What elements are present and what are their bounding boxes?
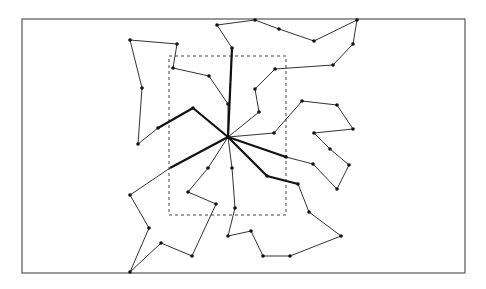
diagram-canvas [0, 0, 486, 289]
node [311, 162, 315, 166]
node [257, 110, 261, 114]
loop-edge-top [217, 20, 357, 137]
node [307, 210, 311, 214]
node [328, 147, 332, 151]
star-loop-diagram [0, 0, 486, 289]
node [288, 254, 292, 258]
node [128, 38, 132, 42]
loop-edge-lower-left [130, 137, 228, 272]
node [207, 74, 211, 78]
node [253, 18, 257, 22]
node [191, 106, 195, 110]
node [233, 206, 237, 210]
node [261, 254, 265, 258]
node [351, 42, 355, 46]
node [272, 131, 276, 135]
node [226, 102, 230, 106]
node [230, 46, 234, 50]
node [273, 67, 277, 71]
node [253, 87, 257, 91]
hub-node [226, 135, 230, 139]
node [140, 86, 144, 90]
node [265, 174, 269, 178]
node [171, 66, 175, 70]
node [156, 126, 160, 130]
node [159, 241, 163, 245]
node [147, 226, 151, 230]
node [175, 42, 179, 46]
thick-spoke-lower-right [228, 137, 298, 184]
node [300, 99, 304, 103]
node [190, 254, 194, 258]
node [339, 234, 343, 238]
node [186, 190, 190, 194]
node [128, 270, 132, 274]
node [312, 39, 316, 43]
nodes-group [128, 18, 359, 274]
node [214, 202, 218, 206]
node [249, 229, 253, 233]
node [296, 182, 300, 186]
node [355, 18, 359, 22]
node [206, 166, 210, 170]
node [335, 187, 339, 191]
node [331, 63, 335, 67]
thick-spoke-lower-left [170, 137, 228, 168]
node [230, 166, 234, 170]
node [226, 234, 230, 238]
node [347, 163, 351, 167]
node [312, 131, 316, 135]
loop-edge-right [228, 101, 353, 189]
node [136, 142, 140, 146]
node [351, 127, 355, 131]
node [215, 23, 219, 27]
outer-border [22, 19, 465, 273]
node [277, 27, 281, 31]
thick-spoke-top [228, 48, 232, 137]
node [335, 103, 339, 107]
edges-group [130, 20, 357, 272]
node [284, 155, 288, 159]
node [128, 193, 132, 197]
